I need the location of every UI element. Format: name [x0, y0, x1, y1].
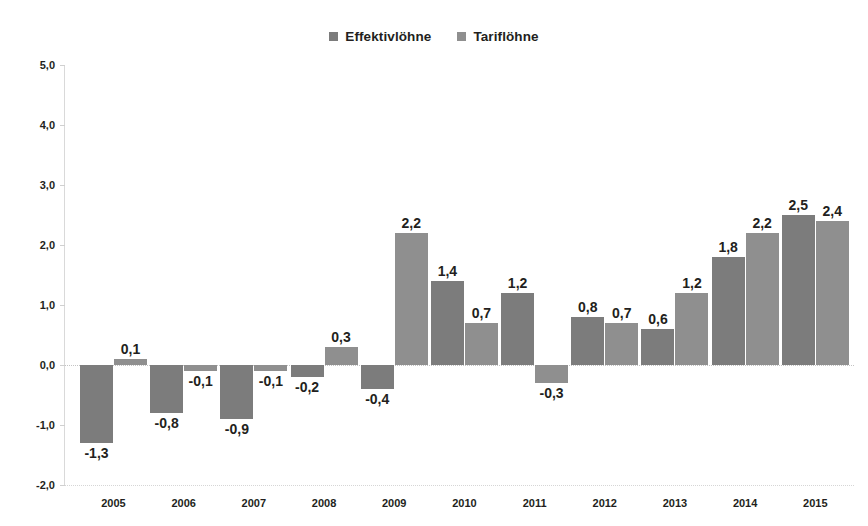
bar-value-label: 0,6	[648, 311, 667, 327]
y-axis-tick	[60, 365, 65, 366]
x-axis-label-2013: 2013	[641, 497, 708, 509]
bar-2010-effektivlöhne[interactable]: 1,4	[431, 281, 464, 365]
y-axis-tick	[60, 125, 65, 126]
bar-2013-tariflöhne[interactable]: 1,2	[675, 293, 708, 365]
bar-2013-effektivlöhne[interactable]: 0,6	[641, 329, 674, 365]
bar-value-label: 2,2	[401, 215, 420, 231]
bar-2014-effektivlöhne[interactable]: 1,8	[712, 257, 745, 365]
bar-group-2012: 0,80,7	[571, 65, 638, 485]
y-axis-tick	[60, 65, 65, 66]
bar-value-label: -0,9	[225, 421, 249, 437]
bar-chart: EffektivlöhneTariflöhne 5,04,03,02,01,00…	[0, 0, 868, 526]
bar-value-label: 2,4	[823, 203, 842, 219]
y-axis-tick	[60, 185, 65, 186]
bar-value-label: 1,8	[718, 239, 737, 255]
bar-value-label: -0,1	[259, 373, 283, 389]
chart-legend: EffektivlöhneTariflöhne	[0, 24, 868, 48]
bar-group-2006: -0,8-0,1	[150, 65, 217, 485]
bar-2007-effektivlöhne[interactable]: -0,9	[220, 365, 253, 419]
y-axis-tick-label: 4,0	[40, 119, 55, 131]
y-axis-tick	[60, 425, 65, 426]
legend-item-label: Tariflöhne	[473, 29, 538, 44]
bar-group-2008: -0,20,3	[291, 65, 358, 485]
bar-value-label: 2,5	[789, 197, 808, 213]
y-axis-line	[64, 65, 65, 485]
bar-value-label: -0,2	[295, 379, 319, 395]
bar-2006-effektivlöhne[interactable]: -0,8	[150, 365, 183, 413]
bar-value-label: 2,2	[752, 215, 771, 231]
bar-group-2011: 1,2-0,3	[501, 65, 568, 485]
bar-2008-effektivlöhne[interactable]: -0,2	[291, 365, 324, 377]
y-axis-tick-label: 0,0	[40, 359, 55, 371]
bar-2010-tariflöhne[interactable]: 0,7	[465, 323, 498, 365]
bar-group-2014: 1,82,2	[712, 65, 779, 485]
x-axis-label-2014: 2014	[712, 497, 779, 509]
y-axis-tick	[60, 305, 65, 306]
x-axis-label-2007: 2007	[220, 497, 287, 509]
bar-2012-tariflöhne[interactable]: 0,7	[605, 323, 638, 365]
bar-2014-tariflöhne[interactable]: 2,2	[746, 233, 779, 365]
x-axis-label-2009: 2009	[361, 497, 428, 509]
x-axis-line	[64, 485, 854, 487]
x-axis-label-2010: 2010	[431, 497, 498, 509]
legend-item-label: Effektivlöhne	[345, 29, 431, 44]
y-axis-tick	[60, 245, 65, 246]
bar-value-label: 0,1	[121, 341, 140, 357]
bar-2005-effektivlöhne[interactable]: -1,3	[80, 365, 113, 443]
x-axis-label-2011: 2011	[501, 497, 568, 509]
bar-2015-effektivlöhne[interactable]: 2,5	[782, 215, 815, 365]
x-axis-label-2008: 2008	[291, 497, 358, 509]
bar-2009-effektivlöhne[interactable]: -0,4	[361, 365, 394, 389]
bar-value-label: -0,4	[365, 391, 389, 407]
x-axis-label-2005: 2005	[80, 497, 147, 509]
bar-value-label: 1,4	[438, 263, 457, 279]
x-axis-label-2006: 2006	[150, 497, 217, 509]
bar-value-label: -0,1	[189, 373, 213, 389]
bar-value-label: 0,7	[612, 305, 631, 321]
bar-2006-tariflöhne[interactable]: -0,1	[184, 365, 217, 371]
bar-group-2005: -1,30,1	[80, 65, 147, 485]
bar-value-label: 0,7	[472, 305, 491, 321]
bar-2012-effektivlöhne[interactable]: 0,8	[571, 317, 604, 365]
plot-area: 5,04,03,02,01,00,0-1,0-2,0-1,30,12005-0,…	[64, 65, 854, 485]
bar-value-label: -0,8	[155, 415, 179, 431]
square-swatch-icon	[329, 32, 338, 41]
bar-group-2010: 1,40,7	[431, 65, 498, 485]
y-axis-tick-label: -1,0	[36, 419, 55, 431]
y-axis-tick-label: 3,0	[40, 179, 55, 191]
bar-2005-tariflöhne[interactable]: 0,1	[114, 359, 147, 365]
bar-value-label: 1,2	[682, 275, 701, 291]
bar-value-label: 0,8	[578, 299, 597, 315]
y-axis-tick-label: -2,0	[36, 479, 55, 491]
bar-group-2009: -0,42,2	[361, 65, 428, 485]
y-axis-tick-label: 5,0	[40, 59, 55, 71]
legend-item-effektivlöhne[interactable]: Effektivlöhne	[329, 29, 431, 44]
bar-2008-tariflöhne[interactable]: 0,3	[325, 347, 358, 365]
bar-group-2007: -0,9-0,1	[220, 65, 287, 485]
y-axis-tick-label: 2,0	[40, 239, 55, 251]
legend-item-tariflöhne[interactable]: Tariflöhne	[457, 29, 538, 44]
bar-2009-tariflöhne[interactable]: 2,2	[395, 233, 428, 365]
bar-value-label: -0,3	[540, 385, 564, 401]
bar-group-2015: 2,52,4	[782, 65, 849, 485]
bar-value-label: 1,2	[508, 275, 527, 291]
square-swatch-icon	[457, 32, 466, 41]
bar-group-2013: 0,61,2	[641, 65, 708, 485]
bar-2007-tariflöhne[interactable]: -0,1	[254, 365, 287, 371]
x-axis-label-2015: 2015	[782, 497, 849, 509]
bar-2011-tariflöhne[interactable]: -0,3	[535, 365, 568, 383]
x-axis-label-2012: 2012	[571, 497, 638, 509]
bar-2011-effektivlöhne[interactable]: 1,2	[501, 293, 534, 365]
y-axis-tick-label: 1,0	[40, 299, 55, 311]
bar-2015-tariflöhne[interactable]: 2,4	[816, 221, 849, 365]
y-axis-tick	[60, 485, 65, 486]
bar-value-label: 0,3	[331, 329, 350, 345]
bar-value-label: -1,3	[84, 445, 108, 461]
